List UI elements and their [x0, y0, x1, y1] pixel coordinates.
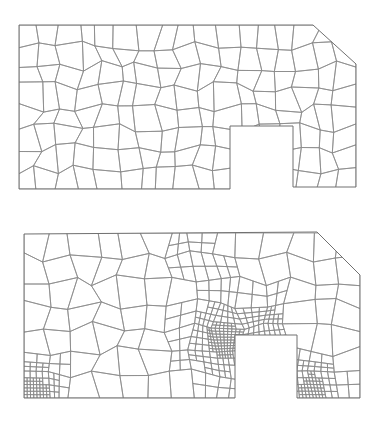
domain-outline: [19, 25, 356, 189]
coarse-mesh-panel: [0, 0, 387, 211]
refined-mesh-diagram: [0, 211, 387, 422]
mesh-grid: [19, 25, 356, 189]
mesh-grid: [24, 233, 360, 398]
coarse-mesh-diagram: [0, 0, 387, 211]
refined-mesh-panel: [0, 211, 387, 422]
